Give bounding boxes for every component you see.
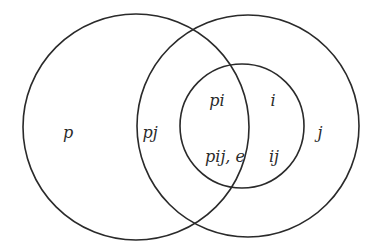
label-pi: pi [209, 91, 224, 110]
label-ij: ij [269, 147, 279, 166]
venn-diagram: p pj pi i j pij, e ij [0, 0, 383, 246]
label-i: i [270, 91, 275, 110]
label-pj: pj [142, 123, 157, 142]
label-p: p [63, 123, 73, 142]
circle-right [137, 15, 359, 237]
label-pij-e: pij, e [205, 147, 245, 166]
label-j: j [315, 123, 323, 142]
circle-left [23, 14, 249, 240]
circle-inner [180, 64, 304, 188]
